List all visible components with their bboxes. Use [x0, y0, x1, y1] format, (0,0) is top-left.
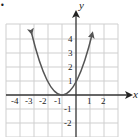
svg-text:-2: -2 — [39, 96, 47, 106]
svg-text:4: 4 — [68, 34, 73, 44]
svg-text:-1: -1 — [64, 104, 72, 114]
y-axis-label: y — [78, 0, 84, 11]
chart: y x -4 -3 -2 -1 1 2 4 3 2 1 -1 -2 • — [0, 0, 140, 137]
svg-text:-3: -3 — [25, 96, 33, 106]
svg-text:-2: -2 — [64, 118, 72, 128]
svg-text:3: 3 — [68, 48, 73, 58]
svg-text:1: 1 — [68, 76, 73, 86]
x-tick-labels: -4 -3 -2 -1 1 2 — [11, 96, 106, 106]
svg-text:-4: -4 — [11, 96, 19, 106]
svg-text:-1: -1 — [54, 96, 62, 106]
svg-text:2: 2 — [68, 62, 73, 72]
svg-text:2: 2 — [101, 96, 106, 106]
grid — [6, 24, 118, 137]
bullet-marker: • — [0, 1, 5, 10]
x-axis-label: x — [132, 88, 138, 100]
svg-text:1: 1 — [87, 96, 92, 106]
